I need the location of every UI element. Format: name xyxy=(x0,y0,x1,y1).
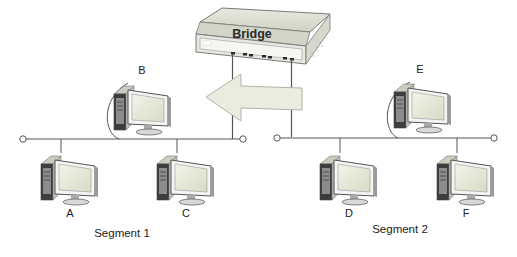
computer-e-label: E xyxy=(416,63,423,75)
computer-b-icon xyxy=(114,86,171,135)
computer-a-icon xyxy=(41,156,98,205)
computer-d-label: D xyxy=(345,207,353,219)
segment-2-bus xyxy=(274,82,497,153)
computer-c-label: C xyxy=(182,207,190,219)
bridge-label: Bridge xyxy=(232,27,272,41)
computer-f-icon xyxy=(437,156,494,205)
computer-e-icon xyxy=(394,84,451,133)
computer-a-label: A xyxy=(66,207,73,219)
segment-1-label: Segment 1 xyxy=(94,227,150,239)
segment-2-label: Segment 2 xyxy=(372,223,428,235)
computer-f-label: F xyxy=(463,207,470,219)
left-arrow-icon xyxy=(206,74,302,121)
computer-d-icon xyxy=(320,156,377,205)
computer-b-label: B xyxy=(138,64,145,76)
computer-c-icon xyxy=(157,156,214,205)
